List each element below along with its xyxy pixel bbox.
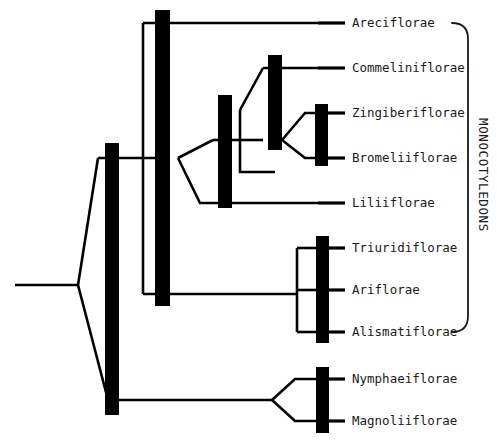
taxon-label-nymphaeiflorae: Nymphaeiflorae	[352, 371, 457, 386]
commelinoid-bar	[268, 55, 282, 150]
commelinoid-stem	[240, 68, 263, 110]
magnoliid-stem-bar	[105, 143, 119, 415]
monocot-stem-bar	[155, 10, 170, 306]
nymphaeid-bar	[316, 367, 329, 433]
taxon-labels-group: ArecifloraeCommelinifloraeZingiberiflora…	[352, 15, 465, 428]
taxon-label-ariflorae: Ariflorae	[352, 282, 420, 297]
root-to-monocots	[78, 158, 98, 285]
taxon-label-liliiflorae: Liliiflorae	[352, 195, 435, 210]
taxon-label-bromeliiflorae: Bromeliiflorae	[352, 150, 457, 165]
zingiber-stem	[282, 113, 318, 140]
lilioid-to-lilii	[178, 158, 318, 203]
taxon-label-areciflorae: Areciflorae	[352, 15, 435, 30]
cladogram-canvas: ArecifloraeCommelinifloraeZingiberiflora…	[0, 0, 497, 442]
nymphaei-stem	[272, 379, 318, 400]
leaf-ticks-group	[318, 23, 345, 421]
cladogram-diagram: ArecifloraeCommelinifloraeZingiberiflora…	[0, 0, 497, 442]
group-label-monocotyledons: MONOCOTYLEDONS	[476, 118, 491, 232]
lilioid-bar	[218, 95, 232, 208]
clade-bars-group	[105, 10, 329, 433]
lilioid-stem	[178, 140, 213, 158]
root-to-magnoliids	[78, 285, 108, 400]
taxon-label-triuridiflorae: Triuridiflorae	[352, 240, 457, 255]
taxon-label-alismatiflorae: Alismatiflorae	[352, 324, 457, 339]
taxon-label-zingiberiflorae: Zingiberiflorae	[352, 105, 465, 120]
taxon-label-commeliniflorae: Commeliniflorae	[352, 60, 465, 75]
magnolii-stem	[272, 400, 318, 421]
bromelia-stem	[282, 140, 318, 158]
taxon-label-magnoliiflorae: Magnoliiflorae	[352, 413, 457, 428]
